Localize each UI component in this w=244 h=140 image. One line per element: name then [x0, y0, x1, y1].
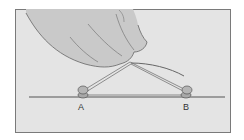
string-end [131, 63, 184, 76]
string-pins-diagram: A B [0, 0, 244, 140]
hand-illustration [26, 9, 147, 67]
pin-b [181, 86, 192, 98]
pin-a [78, 86, 88, 98]
pin-label-a: A [78, 102, 84, 112]
pin-label-b: B [183, 102, 189, 112]
